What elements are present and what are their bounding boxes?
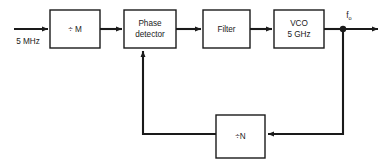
phase-detector-label-line1: Phase [138,19,162,28]
divide-by-m-label: ÷ M [68,25,82,34]
filter-label: Filter [217,25,235,34]
diagram-canvas: ÷ M Phase detector Filter VCO 5 GHz ÷N 5… [0,0,384,163]
output-frequency-subscript: o [349,15,352,21]
output-junction-dot [340,26,346,32]
divide-by-n-label: ÷N [235,132,245,141]
output-frequency-label: fo [346,10,351,21]
vco-block[interactable] [274,10,324,48]
vco-label-line2: 5 GHz [287,30,310,39]
phase-detector-label-line2: detector [135,30,165,39]
vco-label-line1: VCO [290,19,308,28]
phase-detector-block[interactable] [124,10,176,48]
input-frequency-label: 5 MHz [16,37,40,46]
pll-block-diagram: ÷ M Phase detector Filter VCO 5 GHz ÷N 5… [0,0,384,163]
